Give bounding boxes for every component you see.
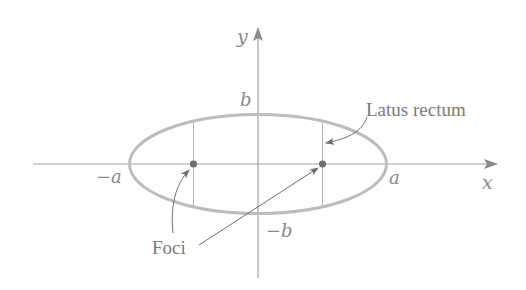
- label-pos-a: a: [389, 167, 400, 188]
- y-axis-label: y: [236, 25, 248, 47]
- ellipse-diagram: y x b −b −a a Latus rectum Foci: [0, 0, 526, 290]
- label-neg-a: −a: [96, 166, 122, 187]
- label-pos-b: b: [240, 89, 252, 110]
- foci-label: Foci: [152, 237, 186, 258]
- x-axis-label: x: [482, 171, 493, 193]
- label-neg-b: −b: [266, 220, 293, 241]
- latus-rectum-label: Latus rectum: [366, 99, 466, 120]
- focus-right: [319, 160, 326, 167]
- focus-left: [190, 160, 197, 167]
- latus-rectum-pointer: [326, 117, 367, 143]
